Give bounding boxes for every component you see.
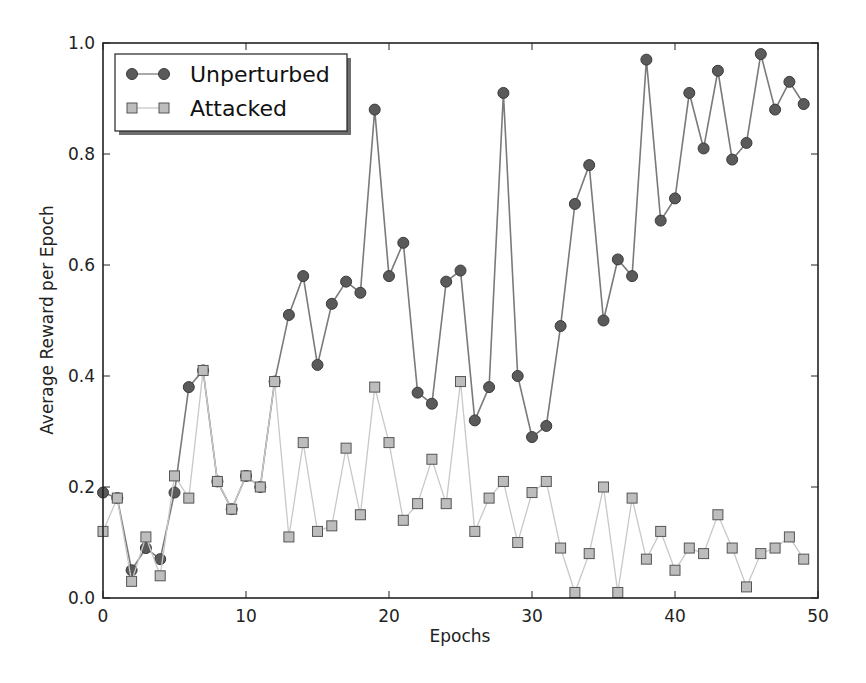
- data-point: [184, 493, 194, 503]
- x-tick-label: 30: [521, 606, 543, 626]
- data-point: [556, 543, 566, 553]
- data-point: [498, 87, 509, 98]
- data-point: [541, 420, 552, 431]
- square-marker-icon: [127, 103, 137, 113]
- data-point: [169, 487, 180, 498]
- data-point: [670, 565, 680, 575]
- data-point: [170, 471, 180, 481]
- data-point: [799, 554, 809, 564]
- chart-container: 010203040500.00.20.40.60.81.0 Epochs Ave…: [0, 0, 866, 683]
- data-point: [312, 359, 323, 370]
- y-tick-label: 0.8: [68, 144, 95, 164]
- line-chart: 010203040500.00.20.40.60.81.0 Epochs Ave…: [0, 0, 866, 683]
- circle-marker-icon: [127, 69, 138, 80]
- y-tick-label: 0.4: [68, 366, 95, 386]
- data-point: [441, 276, 452, 287]
- data-point: [541, 476, 551, 486]
- data-point: [370, 382, 380, 392]
- data-point: [355, 287, 366, 298]
- y-tick-label: 0.6: [68, 255, 95, 275]
- legend-label-attacked: Attacked: [190, 96, 287, 121]
- data-point: [412, 387, 423, 398]
- data-point: [427, 454, 437, 464]
- data-point: [627, 493, 637, 503]
- data-point: [555, 321, 566, 332]
- data-point: [712, 65, 723, 76]
- series-attacked: [98, 365, 809, 597]
- data-point: [570, 587, 580, 597]
- data-point: [341, 276, 352, 287]
- data-point: [398, 515, 408, 525]
- data-point: [599, 482, 609, 492]
- data-point: [227, 504, 237, 514]
- data-point: [598, 315, 609, 326]
- data-point: [727, 543, 737, 553]
- data-point: [684, 87, 695, 98]
- data-point: [727, 154, 738, 165]
- x-tick-label: 10: [235, 606, 257, 626]
- data-point: [698, 143, 709, 154]
- data-point: [241, 471, 251, 481]
- data-point: [469, 415, 480, 426]
- data-point: [384, 438, 394, 448]
- y-tick-label: 0.0: [68, 588, 95, 608]
- legend-label-unperturbed: Unperturbed: [190, 62, 330, 87]
- data-point: [527, 488, 537, 498]
- data-point: [699, 549, 709, 559]
- data-point: [612, 254, 623, 265]
- x-axis-label: Epochs: [430, 626, 491, 646]
- data-point: [313, 526, 323, 536]
- data-point: [670, 193, 681, 204]
- y-tick-label: 0.2: [68, 477, 95, 497]
- data-point: [784, 76, 795, 87]
- data-point: [369, 104, 380, 115]
- data-point: [384, 271, 395, 282]
- square-marker-icon: [159, 103, 169, 113]
- legend: Unperturbed Attacked: [115, 54, 351, 135]
- data-point: [198, 365, 208, 375]
- data-point: [413, 499, 423, 509]
- data-point: [284, 532, 294, 542]
- data-point: [527, 432, 538, 443]
- data-point: [270, 377, 280, 387]
- data-point: [784, 532, 794, 542]
- data-point: [498, 476, 508, 486]
- data-point: [656, 526, 666, 536]
- data-point: [112, 493, 122, 503]
- data-point: [298, 438, 308, 448]
- data-point: [655, 215, 666, 226]
- data-point: [212, 476, 222, 486]
- data-point: [426, 398, 437, 409]
- y-axis-label: Average Reward per Epoch: [37, 205, 57, 435]
- data-point: [283, 309, 294, 320]
- data-point: [713, 510, 723, 520]
- data-point: [141, 532, 151, 542]
- data-point: [155, 554, 166, 565]
- y-tick-label: 1.0: [68, 33, 95, 53]
- data-point: [341, 443, 351, 453]
- x-tick-label: 0: [98, 606, 109, 626]
- data-point: [298, 271, 309, 282]
- data-point: [584, 549, 594, 559]
- data-point: [398, 237, 409, 248]
- data-point: [484, 382, 495, 393]
- data-point: [584, 160, 595, 171]
- data-point: [627, 271, 638, 282]
- data-point: [755, 49, 766, 60]
- data-point: [183, 382, 194, 393]
- data-point: [455, 265, 466, 276]
- x-tick-label: 40: [664, 606, 686, 626]
- data-point: [326, 298, 337, 309]
- data-point: [641, 54, 652, 65]
- data-point: [470, 526, 480, 536]
- data-point: [741, 137, 752, 148]
- data-point: [569, 198, 580, 209]
- data-point: [355, 510, 365, 520]
- data-point: [770, 543, 780, 553]
- data-point: [684, 543, 694, 553]
- x-tick-label: 50: [807, 606, 829, 626]
- data-point: [327, 521, 337, 531]
- circle-marker-icon: [159, 69, 170, 80]
- data-point: [756, 549, 766, 559]
- data-point: [155, 571, 165, 581]
